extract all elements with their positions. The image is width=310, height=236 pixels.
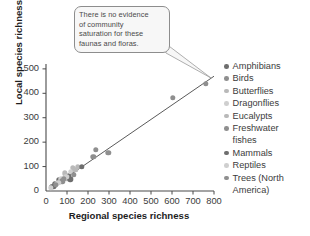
legend-item[interactable]: Freshwater — [224, 122, 310, 134]
legend-marker-dot-icon — [224, 114, 229, 119]
legend-marker-dot-icon — [224, 163, 229, 168]
legend-item-label: Birds — [233, 72, 254, 84]
data-point — [53, 182, 58, 187]
data-point — [71, 172, 76, 177]
legend-item-label: Eucalypts — [233, 110, 273, 122]
legend-item[interactable]: Butterflies — [224, 85, 310, 97]
callout-text: There is no evidence of community satura… — [79, 10, 167, 49]
callout-annotation: There is no evidence of community satura… — [74, 6, 170, 53]
legend-item[interactable]: Dragonflies — [224, 97, 310, 109]
legend-item[interactable]: Eucalypts — [224, 110, 310, 122]
legend-item-label: Reptiles — [233, 159, 266, 171]
legend-marker-dot-icon — [224, 76, 229, 81]
legend-item[interactable]: Amphibians — [224, 60, 310, 72]
data-point — [48, 185, 53, 190]
data-point — [91, 154, 96, 159]
legend-item-continuation: fishes — [224, 134, 310, 146]
legend-marker-dot-icon — [224, 89, 229, 94]
chart-screenshot: There is no evidence of community satura… — [0, 0, 310, 236]
x-tick-label: 800 — [201, 196, 227, 206]
legend-item[interactable]: Reptiles — [224, 159, 310, 171]
legend-marker-dot-icon — [224, 151, 229, 156]
y-tick-label: 100 — [9, 161, 39, 171]
x-axis-label: Regional species richness — [34, 210, 224, 221]
plot-area — [46, 64, 214, 191]
data-point — [170, 95, 175, 100]
y-axis-label: Local species richness — [13, 0, 24, 123]
legend-item[interactable]: Birds — [224, 72, 310, 84]
legend-item-label: Freshwater — [233, 122, 279, 134]
legend-item-label-continued: America) — [233, 184, 270, 196]
legend-item-label: Mammals — [233, 147, 273, 159]
legend-item[interactable]: Mammals — [224, 147, 310, 159]
legend-item-label-continued: fishes — [233, 134, 257, 146]
legend-marker-dot-icon — [224, 126, 229, 131]
legend-marker-dot-icon — [224, 176, 229, 181]
y-tick-label: 0 — [9, 185, 39, 195]
legend-marker-dot-icon — [224, 101, 229, 106]
y-tick-label: 200 — [9, 136, 39, 146]
data-point — [61, 176, 66, 181]
data-point — [105, 150, 110, 155]
legend-item-label: Butterflies — [233, 85, 274, 97]
data-point — [203, 81, 208, 86]
legend-item-label: Trees (North — [233, 172, 284, 184]
data-point — [93, 147, 98, 152]
legend-item-label: Dragonflies — [233, 97, 279, 109]
chart-legend: AmphibiansBirdsButterfliesDragonfliesEuc… — [224, 60, 310, 196]
legend-marker-dot-icon — [224, 64, 229, 69]
data-point — [79, 164, 84, 169]
legend-item-label: Amphibians — [233, 60, 281, 72]
legend-item-continuation: America) — [224, 184, 310, 196]
legend-item[interactable]: Trees (North — [224, 172, 310, 184]
